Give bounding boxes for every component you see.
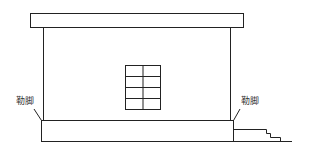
plinth (42, 121, 234, 142)
right-leader-line (234, 109, 241, 121)
left-plinth-label: 勒脚 (16, 96, 34, 106)
window (126, 66, 161, 110)
right-plinth-label: 勒脚 (241, 96, 259, 106)
roof-slab (31, 14, 244, 28)
left-leader-line (34, 109, 42, 121)
steps (234, 130, 281, 142)
building-elevation-drawing (0, 0, 309, 155)
